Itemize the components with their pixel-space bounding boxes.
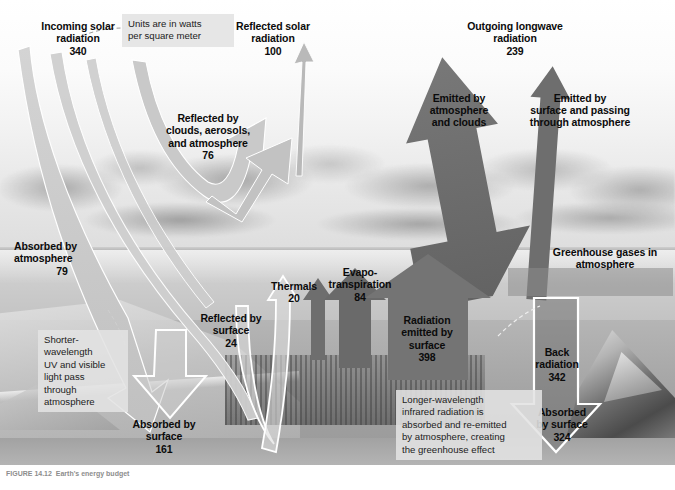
label-absorbed-by-surface-solar-text: Absorbed by surface — [132, 418, 195, 442]
label-reflected-solar-value: 100 — [210, 45, 336, 57]
label-outgoing-longwave: Outgoing longwave radiation 239 — [432, 8, 598, 69]
label-outgoing-longwave-text: Outgoing longwave radiation — [467, 20, 563, 44]
label-reflected-solar-text: Reflected solar radiation — [236, 20, 310, 44]
label-absorbed-by-surface-solar-value: 161 — [112, 443, 216, 455]
label-emitted-by-surface-passing: Emitted by surface and passing through a… — [504, 92, 656, 129]
greenhouse-gas-band — [508, 268, 673, 296]
label-absorbed-by-atmosphere: Absorbed by atmosphere 79 — [14, 228, 124, 289]
longwave-note: Longer-wavelength infrared radiation is … — [396, 390, 542, 460]
label-reflected-by-clouds-text: Reflected by clouds, aerosols, and atmos… — [166, 112, 250, 148]
label-absorbed-by-surface-back-text: Absorbed by surface — [536, 406, 588, 430]
label-reflected-solar: Reflected solar radiation 100 — [210, 8, 336, 69]
label-absorbed-by-surface-solar: Absorbed by surface 161 — [112, 406, 216, 467]
label-thermals-text: Thermals — [271, 280, 317, 292]
label-emitted-by-atmosphere: Emitted by atmosphere and clouds — [404, 92, 514, 129]
label-incoming-solar-text: Incoming solar radiation — [41, 20, 114, 44]
label-back-radiation: Back radiation 342 — [524, 334, 590, 395]
label-absorbed-by-atmosphere-value: 79 — [14, 265, 110, 277]
label-absorbed-by-atmosphere-text: Absorbed by atmosphere — [14, 240, 77, 264]
shortwave-note: Shorter- wavelength UV and visible light… — [38, 330, 128, 412]
label-reflected-by-clouds-value: 76 — [146, 149, 270, 161]
label-back-radiation-value: 342 — [524, 371, 590, 383]
label-greenhouse-gases: Greenhouse gases in atmosphere — [536, 246, 674, 270]
earth-energy-budget-figure: Incoming solar radiation 340 Units are i… — [0, 0, 675, 490]
label-radiation-emitted-by-surface-value: 398 — [384, 351, 470, 363]
label-radiation-emitted-by-surface: Radiation emitted by surface 398 — [384, 302, 470, 375]
label-reflected-by-surface-value: 24 — [182, 337, 280, 349]
label-evapotranspiration-value: 84 — [312, 291, 408, 303]
label-evapotranspiration-text: Evapo- transpiration — [329, 266, 392, 290]
label-reflected-by-surface-text: Reflected by surface — [200, 312, 261, 336]
figure-caption: FIGURE 14.12 Earth's energy budget — [6, 470, 129, 477]
label-back-radiation-text: Back radiation — [535, 346, 578, 370]
label-radiation-emitted-by-surface-text: Radiation emitted by surface — [401, 314, 453, 350]
label-outgoing-longwave-value: 239 — [432, 45, 598, 57]
label-reflected-by-clouds: Reflected by clouds, aerosols, and atmos… — [146, 100, 270, 173]
